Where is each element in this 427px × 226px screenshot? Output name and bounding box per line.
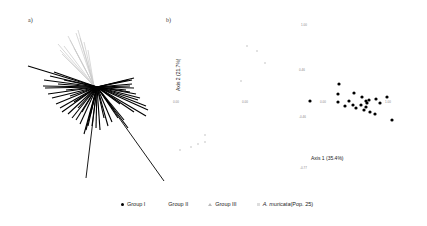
pcoa-scatter [0,0,427,190]
tick-y-mid: 0.00 [320,100,326,104]
square-marker-icon [257,203,260,206]
legend-label-pop: (Pop. 25) [290,201,313,207]
tick-y-upper: 0.46 [299,68,305,72]
legend-item-group-ii: Group II [165,201,188,207]
legend-item-group-i: Group I [121,201,145,207]
tick-y-bottom: -0.77 [300,166,307,170]
tick-y-top: 1.00 [301,23,307,27]
legend-label: Group I [127,201,145,207]
tick-x-center: 0.00 [242,100,248,104]
tick-x-left: 0.00 [173,100,179,104]
y-axis-title: Axis 2 (21.7%) [175,58,181,91]
dot-marker-icon [121,203,124,206]
tick-x-right: 1.00 [385,100,391,104]
legend: Group I Group II Group III A. muricata (… [121,201,333,207]
tick-y-lower: -0.46 [299,115,306,119]
x-axis-title: Axis 1 (35.4%) [311,155,344,161]
legend-label-species: A. muricata [263,201,291,207]
muricata-points [179,45,266,151]
triangle-marker-icon [208,203,212,206]
legend-label: Group III [215,201,236,207]
legend-item-group-iii: Group III [208,201,236,207]
legend-label: Group II [168,201,188,207]
legend-item-muricata: A. muricata (Pop. 25) [257,201,313,207]
